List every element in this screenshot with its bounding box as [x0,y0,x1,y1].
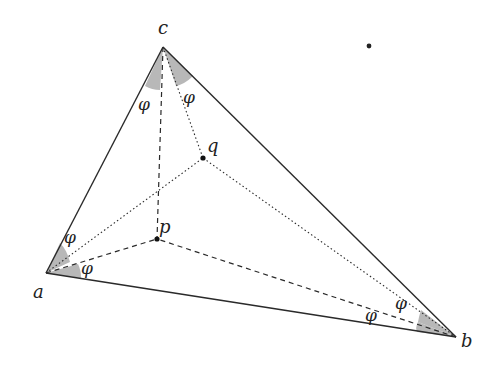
angle-wedge-c-right [163,47,193,86]
vertex-label-c: c [158,17,168,38]
vertex-label-a: a [33,281,44,302]
vertex-label-b: b [461,330,473,351]
angle-label-b-right: φ [395,293,407,313]
point-label-p: p [159,216,171,237]
stray-dot [367,44,372,49]
segment-bq [203,158,456,337]
angle-label-a-upper: φ [64,227,76,247]
triangle-diagram: c a b p q φ φ φ φ φ φ [0,0,499,367]
segment-bp [157,239,456,337]
angle-label-c-right: φ [183,87,195,107]
point-q-dot [200,155,205,160]
point-p-dot [154,236,159,241]
point-label-q: q [207,135,219,156]
side-bc [163,47,456,337]
angle-label-a-lower: φ [81,258,93,278]
angle-label-b-left: φ [365,305,377,325]
segment-aq [46,158,203,273]
angle-label-c-left: φ [138,94,150,114]
